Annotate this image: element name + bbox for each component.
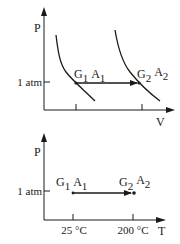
pt-y-axis-arrow-icon (41, 133, 47, 142)
pt-state1-label: G1A1 (56, 175, 87, 192)
pv-state1-point (74, 81, 77, 84)
pt-x-axis-arrow-icon (156, 217, 166, 223)
pv-state2-point (137, 81, 140, 84)
pt-1atm-label: 1 atm (17, 185, 42, 197)
pv-1atm-label: 1 atm (17, 76, 42, 88)
pv-x-axis-arrow-icon (166, 107, 175, 113)
pv-y-axis-arrow-icon (41, 7, 47, 16)
pv-diagram: P V 1 atm G1A1 G2A2 (17, 7, 175, 129)
pv-state2-label: G2A2 (137, 65, 168, 84)
pt-x-label: T (158, 224, 166, 238)
pt-state1-point (72, 192, 75, 195)
pt-y-label: P (34, 145, 41, 159)
pt-diagram: P T 1 atm 25 °C 200 °C G1A1 G2A2 (17, 133, 166, 238)
pt-x-tick-label-25c: 25 °C (61, 224, 87, 236)
pt-state2-label: G2A2 (119, 173, 150, 192)
pv-state1-label: G1A1 (74, 67, 105, 84)
pv-y-label: P (34, 21, 41, 35)
pv-x-label: V (156, 115, 165, 129)
pt-x-tick-label-200c: 200 °C (118, 224, 149, 236)
diagram-canvas: P V 1 atm G1A1 G2A2 P T 1 atm 25 °C 200 … (0, 0, 180, 244)
